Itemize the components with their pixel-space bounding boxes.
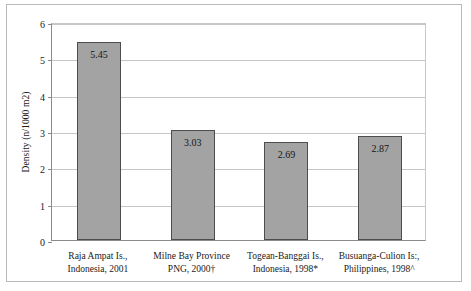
bar: 5.45 bbox=[77, 42, 121, 240]
bar: 3.03 bbox=[171, 130, 215, 240]
y-tick-mark bbox=[48, 97, 52, 98]
y-tick-label: 2 bbox=[40, 164, 45, 175]
y-tick-mark bbox=[48, 60, 52, 61]
x-axis-label-line: Indonesia, 1998* bbox=[239, 263, 333, 276]
bar-value-label: 2.69 bbox=[265, 149, 307, 160]
y-axis-title: Density (n/1000 m2) bbox=[19, 23, 33, 241]
bar-value-label: 3.03 bbox=[172, 137, 214, 148]
x-axis-label-line: Togean-Banggai Is., bbox=[239, 250, 333, 263]
bar: 2.69 bbox=[264, 142, 308, 240]
y-tick-label: 6 bbox=[40, 19, 45, 30]
y-tick-label: 3 bbox=[40, 128, 45, 139]
y-tick-mark bbox=[48, 206, 52, 207]
x-axis-category-label: Raja Ampat Is.,Indonesia, 2001 bbox=[51, 250, 145, 275]
x-axis-label-line: Milne Bay Province bbox=[145, 250, 239, 263]
x-axis-category-label: Busuanga-Culion Is:,Philippines, 1998^ bbox=[332, 250, 426, 275]
y-tick-mark bbox=[48, 169, 52, 170]
y-tick-mark bbox=[48, 242, 52, 243]
chart-figure: Density (n/1000 m2) 0123456 5.453.032.69… bbox=[6, 4, 462, 282]
y-tick-label: 1 bbox=[40, 200, 45, 211]
x-axis-label-line: Philippines, 1998^ bbox=[332, 263, 426, 276]
bar-value-label: 5.45 bbox=[78, 49, 120, 60]
plot-area: 0123456 5.453.032.692.87 bbox=[51, 23, 426, 241]
y-tick-label: 0 bbox=[40, 237, 45, 248]
bar: 2.87 bbox=[358, 136, 402, 240]
y-tick-label: 5 bbox=[40, 55, 45, 66]
y-tick-mark bbox=[48, 133, 52, 134]
x-axis-category-label: Milne Bay ProvincePNG, 2000† bbox=[145, 250, 239, 275]
gridline bbox=[52, 24, 425, 25]
x-axis-label-line: PNG, 2000† bbox=[145, 263, 239, 276]
x-axis-label-line: Raja Ampat Is., bbox=[51, 250, 145, 263]
y-tick-label: 4 bbox=[40, 91, 45, 102]
x-axis-category-label: Togean-Banggai Is.,Indonesia, 1998* bbox=[239, 250, 333, 275]
x-axis-label-line: Busuanga-Culion Is:, bbox=[332, 250, 426, 263]
bar-value-label: 2.87 bbox=[359, 143, 401, 154]
x-axis-label-line: Indonesia, 2001 bbox=[51, 263, 145, 276]
y-tick-mark bbox=[48, 24, 52, 25]
